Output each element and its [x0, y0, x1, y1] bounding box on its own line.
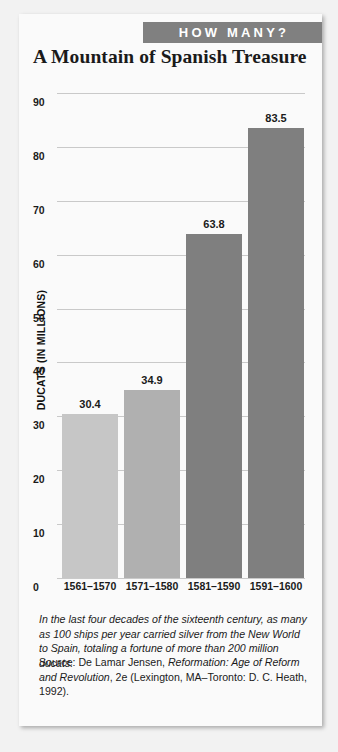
bar-1591–1600 — [248, 128, 304, 578]
y-axis-tick-90: 90 — [33, 96, 63, 108]
y-axis-tick-50: 50 — [33, 312, 63, 324]
bar-value-1571–1580: 34.9 — [112, 374, 192, 386]
chart-card: HOW MANY? A Mountain of Spanish Treasure… — [19, 14, 322, 726]
x-axis-tick-1591–1600: 1591–1600 — [240, 580, 312, 592]
bar-value-1581–1590: 63.8 — [174, 218, 254, 230]
source-prefix: Source: De Lamar Jensen, — [39, 656, 168, 668]
y-axis-tick-80: 80 — [33, 150, 63, 162]
chart-source: Source: De Lamar Jensen, Reformation: Ag… — [39, 655, 311, 699]
bar-1571–1580 — [124, 390, 180, 578]
bar-value-1591–1600: 83.5 — [236, 112, 316, 124]
gridline-90 — [57, 93, 305, 94]
bar-1581–1590 — [186, 234, 242, 578]
y-axis-tick-30: 30 — [33, 419, 63, 431]
bar-1561–1570 — [62, 414, 118, 578]
y-axis-tick-60: 60 — [33, 258, 63, 270]
gridline-0 — [57, 578, 305, 579]
y-axis-tick-70: 70 — [33, 204, 63, 216]
bar-value-1561–1570: 30.4 — [50, 398, 130, 410]
y-axis-tick-20: 20 — [33, 473, 63, 485]
y-axis-tick-10: 10 — [33, 527, 63, 539]
y-axis-title: DUCATS (IN MILLIONS) — [35, 280, 47, 420]
y-axis-tick-40: 40 — [33, 365, 63, 377]
chart-page: HOW MANY? A Mountain of Spanish Treasure… — [0, 0, 338, 752]
